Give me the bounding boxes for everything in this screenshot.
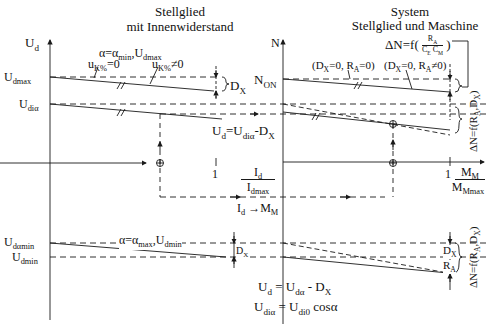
left-y-axis-label: Ud: [25, 36, 39, 53]
ra-label-bottom-right: RA: [443, 260, 456, 274]
right-x-tick-one: 1: [445, 168, 451, 180]
dx-label-bottom-left: DX: [236, 246, 248, 259]
dx-label-top: DX: [230, 79, 246, 96]
right-x-label-den: MMmax: [448, 181, 488, 197]
left-x-tick-one: 1: [212, 168, 218, 180]
left-x-label-den: Idmax: [234, 181, 282, 197]
right-y-axis-label: N: [271, 37, 280, 49]
right-title-line2: Stellglied und Maschine: [345, 19, 485, 32]
left-title-line2: mit Innenwiderstand: [110, 20, 250, 33]
left-title-line1: Stellglied: [120, 5, 240, 18]
equation-udialpha: Udiα = Udi0 cosα: [254, 300, 337, 317]
id-to-mm-label: Id →MM: [237, 202, 278, 218]
uk-zero-label: uK%=0: [88, 58, 120, 74]
formula-ud-dx: Ud=Udiα-DX: [212, 124, 275, 141]
equation-ud: Ud = Udα - DX: [258, 280, 331, 297]
tick-udmin: Udmin: [12, 251, 38, 267]
tick-non: NON: [254, 73, 277, 90]
case-dx0-ranot0: (DX=0, RA≠0): [384, 60, 446, 74]
dx-label-bottom-right: DX: [443, 245, 457, 259]
curve-label-alpha-max: α=αmax,Udmin: [119, 234, 182, 250]
delta-n-side-label-top: ΔN=f(RA,DX): [468, 91, 482, 152]
tick-udialpha: Udiα: [19, 98, 39, 114]
uk-nonzero-label: uK%≠0: [152, 58, 184, 74]
case-dx0-ra0: (DX=0, RA=0): [312, 60, 375, 74]
delta-n-formula: ΔN=f( RA CE CM ): [385, 35, 451, 56]
right-title-line1: System: [370, 5, 450, 18]
delta-n-side-label-bottom: ΔN=f(RA,DX): [468, 227, 482, 288]
tick-udmax: Udmax: [4, 71, 31, 87]
